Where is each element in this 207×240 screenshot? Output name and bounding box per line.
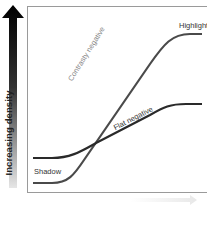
curve-contrasty-negative <box>33 34 202 183</box>
shadow-label: Shadow <box>34 167 61 176</box>
exposure-arrow-icon <box>130 195 197 205</box>
y-axis-label: Increasing density <box>3 67 17 199</box>
highlight-label: Highlight <box>179 21 207 30</box>
